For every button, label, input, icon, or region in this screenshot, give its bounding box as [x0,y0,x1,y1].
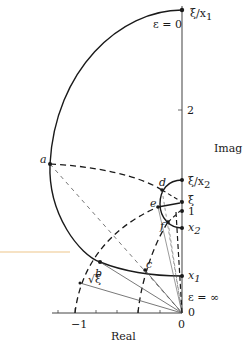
real-axis-ticks [58,308,160,313]
point-f [166,220,170,224]
label-eps-inf: ε = ∞ [188,291,219,304]
label-x1: x1 [188,269,201,284]
point-one [180,209,184,213]
line-e [158,203,180,207]
point-b [98,260,102,264]
root-locus-diagram: ξ/x1 2 Imag ξ/x2 ξ 1 x2 x1 ε = ∞ 0 ε = 0… [0,0,247,346]
point-sqrt-xi [79,282,82,285]
large-locus-curve [50,10,182,276]
label-one: 1 [188,205,195,218]
dashed-f-one [168,211,180,222]
point-xi-over-x1 [180,8,184,12]
point-e [156,205,160,209]
real-tick-label-neg1: −1 [71,318,87,331]
ray-sqrt-xi [80,283,182,313]
point-x1 [180,274,184,278]
point-xi-over-x2 [180,178,184,182]
letter-e: e [150,197,157,210]
dashed-arc-c-f [138,222,168,313]
point-x2 [180,226,184,230]
points [48,8,184,285]
imag-tick-label-0: 0 [188,306,195,319]
dashed-d-xi [162,190,182,202]
imag-axis-label: Imag [214,142,242,155]
label-sqrt-xi: √ξ [88,273,101,286]
imag-tick-label-2: 2 [187,104,194,117]
real-axis-label: Real [111,330,136,343]
label-xi-over-x2: ξ/x2 [188,175,210,190]
letter-a: a [40,153,47,166]
letter-d: d [159,176,166,189]
point-a [48,162,52,166]
ray-b [100,262,182,313]
label-xi-over-x1: ξ/x1 [190,7,212,22]
dashed-arc-a-d [50,164,162,190]
label-x2: x2 [188,221,201,236]
point-xi [180,200,184,204]
real-tick-label-0: 0 [178,318,185,331]
letter-c: c [146,258,152,271]
label-eps-zero: ε = 0 [153,18,182,31]
